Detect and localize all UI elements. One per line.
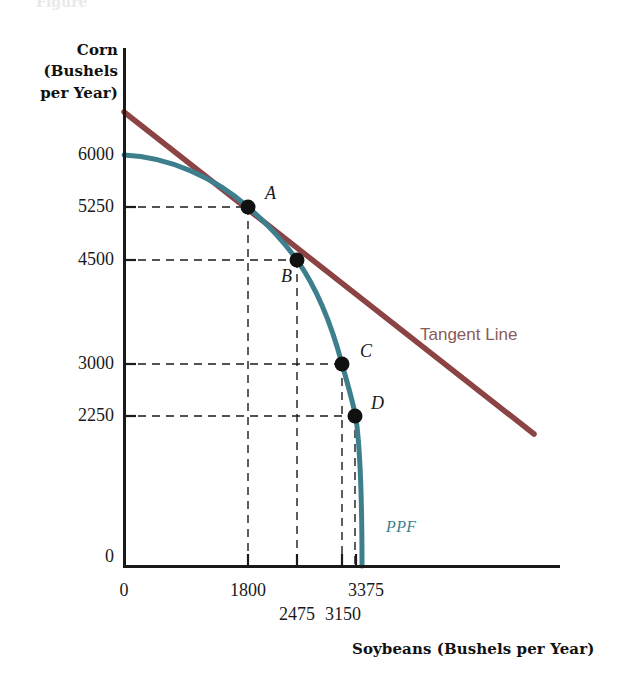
- y-axis-title-line-2: (Bushels: [30, 61, 118, 82]
- point-label-c: C: [360, 341, 372, 362]
- y-tick-label-6000: 6000: [52, 144, 114, 165]
- x-axis-title: Soybeans (Bushels per Year): [352, 640, 594, 658]
- x-tick-label-3150: 3150: [313, 604, 373, 625]
- x-tick-label-3375: 3375: [336, 580, 396, 601]
- point-label-a: A: [265, 183, 276, 204]
- y-tick-label-5250: 5250: [52, 196, 114, 217]
- data-point-d: [348, 409, 363, 424]
- x-tick-label-1800: 1800: [218, 580, 278, 601]
- data-point-a: [241, 200, 256, 215]
- tangent-line-label: Tangent Line: [420, 325, 517, 345]
- ppf-figure: Figure: [0, 0, 628, 679]
- ppf-curve-label: PPF: [386, 518, 417, 536]
- ppf-curve: [124, 155, 362, 566]
- data-point-c: [335, 357, 350, 372]
- x-tick-label-0: 0: [94, 580, 154, 601]
- y-tick-label-2250: 2250: [52, 405, 114, 426]
- y-tick-label-3000: 3000: [52, 353, 114, 374]
- tangent-line: [124, 112, 534, 434]
- data-points: [241, 200, 363, 424]
- point-label-b: B: [281, 266, 292, 287]
- guide-lines: [124, 207, 355, 566]
- y-axis-title-line-3: per Year): [30, 83, 118, 104]
- point-label-d: D: [371, 393, 384, 414]
- y-tick-label-0: 0: [52, 546, 114, 567]
- x-axis-ticks: [248, 554, 356, 566]
- y-axis-title: Corn (Bushels per Year): [30, 40, 118, 104]
- y-axis-title-line-1: Corn: [30, 40, 118, 61]
- y-tick-label-4500: 4500: [52, 249, 114, 270]
- axis-lines: [123, 48, 560, 567]
